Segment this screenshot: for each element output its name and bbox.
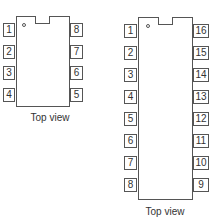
dip16-pin: 3 bbox=[124, 68, 137, 82]
dip16-pin: 7 bbox=[124, 156, 137, 170]
dip16-pin: 14 bbox=[193, 68, 209, 82]
dip16-body bbox=[138, 17, 193, 200]
dip8-pin: 6 bbox=[70, 66, 83, 80]
dip8-pin: 7 bbox=[70, 45, 83, 59]
dip16-pin: 11 bbox=[193, 134, 209, 148]
dip8-pin: 1 bbox=[3, 23, 15, 37]
dip16-pin: 9 bbox=[193, 178, 209, 192]
dip8-body bbox=[16, 16, 70, 107]
dip16-pin: 12 bbox=[193, 112, 209, 126]
dip8-pin: 4 bbox=[3, 88, 15, 102]
dip16-pin: 4 bbox=[124, 90, 137, 104]
dip16-pin: 10 bbox=[193, 156, 209, 170]
dip8-pin: 5 bbox=[70, 88, 83, 102]
dip8-caption: Top view bbox=[18, 112, 82, 123]
dip16-pin: 5 bbox=[124, 112, 137, 126]
dip16-pin: 2 bbox=[124, 46, 137, 60]
dip16-pin: 1 bbox=[124, 24, 137, 38]
dip16-pin: 8 bbox=[124, 178, 137, 192]
dip16-caption: Top view bbox=[133, 206, 197, 217]
pin1-marker-icon bbox=[146, 24, 150, 28]
dip8-pin: 8 bbox=[70, 23, 83, 37]
pin1-marker-icon bbox=[22, 23, 26, 27]
dip8-notch bbox=[35, 16, 50, 24]
dip16-notch bbox=[158, 17, 173, 25]
dip16-pin: 15 bbox=[193, 46, 209, 60]
dip8-pin: 3 bbox=[3, 66, 15, 80]
dip16-pin: 16 bbox=[193, 24, 209, 38]
dip16-pin: 13 bbox=[193, 90, 209, 104]
dip16-pin: 6 bbox=[124, 134, 137, 148]
dip8-pin: 2 bbox=[3, 45, 15, 59]
